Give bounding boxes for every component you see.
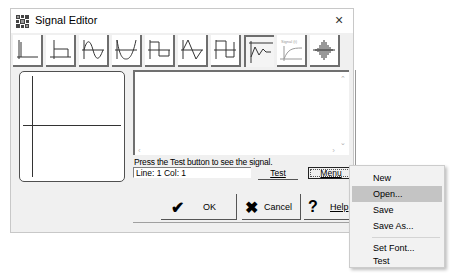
window-title: Signal Editor [35, 14, 97, 26]
help-button[interactable]: ? Help [304, 194, 354, 220]
rectified-sine-icon [113, 37, 139, 63]
tool-triangle[interactable] [178, 35, 208, 67]
bottom-divider [133, 222, 355, 223]
cursor-status: Line: 1 Col: 1 [133, 167, 251, 178]
scroll-down-arrow-icon[interactable]: ⌄ [340, 139, 346, 147]
menu-item-open[interactable]: Open... [352, 186, 442, 202]
menu-item-test[interactable]: Test [352, 256, 442, 268]
signal-toolbar: Signal (t) [13, 35, 353, 69]
signal-text-editor[interactable]: ⌃ ⌄ ‹ › [133, 70, 349, 155]
sine-icon [80, 37, 106, 63]
scroll-right-arrow-icon[interactable]: › [332, 146, 335, 155]
menu-item-save[interactable]: Save [352, 202, 442, 218]
cancel-x-icon: ✖ [245, 198, 258, 217]
menu-label: Menu [320, 168, 341, 178]
tool-square-pulse[interactable] [211, 35, 241, 67]
menu-button[interactable]: Menu [308, 167, 354, 179]
tool-damped-response[interactable] [244, 35, 274, 67]
menu-item-new[interactable]: New [352, 170, 442, 186]
hint-text: Press the Test button to see the signal. [134, 157, 272, 167]
divider [355, 70, 356, 170]
step-icon [47, 37, 73, 63]
triangle-wave-icon [179, 37, 205, 63]
test-button[interactable]: Test [258, 167, 298, 180]
noise-burst-icon [311, 37, 337, 63]
context-menu: New Open... Save Save As... Set Font... … [349, 165, 445, 268]
tool-signal-rise[interactable]: Signal (t) [277, 35, 307, 67]
cancel-label: Cancel [264, 202, 292, 212]
signal-preview [19, 71, 125, 182]
signal-rise-icon: Signal (t) [278, 37, 304, 63]
cancel-button[interactable]: ✖ Cancel [242, 194, 301, 220]
impulse-icon [14, 37, 40, 63]
scroll-up-arrow-icon[interactable]: ⌃ [340, 75, 346, 83]
test-label: Test [270, 168, 286, 178]
close-button[interactable]: × [331, 12, 347, 28]
checkmark-icon: ✔ [171, 198, 184, 217]
tool-impulse[interactable] [13, 35, 43, 67]
ok-label: OK [203, 202, 216, 212]
square-wave-icon [146, 37, 172, 63]
tool-noise-burst[interactable] [310, 35, 340, 67]
y-axis [32, 76, 33, 177]
tool-square[interactable] [145, 35, 175, 67]
menu-item-save-as[interactable]: Save As... [352, 218, 442, 234]
tool-sine[interactable] [79, 35, 109, 67]
help-question-icon: ? [308, 198, 318, 216]
app-icon [16, 15, 29, 28]
menu-item-set-font[interactable]: Set Font... [352, 240, 442, 256]
title-bar: Signal Editor × [11, 9, 353, 33]
ok-button[interactable]: ✔ OK [161, 194, 237, 220]
x-axis [23, 125, 121, 126]
tool-step[interactable] [46, 35, 76, 67]
signal-editor-dialog: Signal Editor × Signal (t) [10, 8, 354, 233]
help-label: Help [330, 202, 349, 212]
damped-response-icon [247, 39, 273, 65]
scroll-left-arrow-icon[interactable]: ‹ [138, 146, 141, 155]
square-pulse-icon [212, 37, 238, 63]
tool-rectified-sine[interactable] [112, 35, 142, 67]
menu-separator [372, 237, 440, 238]
svg-text:Signal (t): Signal (t) [281, 39, 298, 44]
